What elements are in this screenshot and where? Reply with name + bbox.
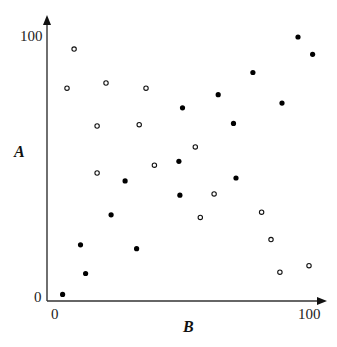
open-circle-point xyxy=(307,264,311,268)
open-circle-point xyxy=(104,81,108,85)
open-circle-point xyxy=(95,124,99,128)
data-points xyxy=(60,34,315,297)
filled-circle-point xyxy=(310,52,315,57)
open-circle-point xyxy=(72,47,76,51)
y-tick-max: 100 xyxy=(20,29,43,44)
plot-area xyxy=(0,0,337,347)
open-circle-point xyxy=(65,86,69,90)
open-circle-point xyxy=(95,171,99,175)
scatter-chart: 100 0 0 100 A B xyxy=(0,0,337,347)
filled-circle-point xyxy=(279,101,284,106)
filled-circle-point xyxy=(123,178,128,183)
filled-circle-point xyxy=(83,271,88,276)
open-circle-point xyxy=(278,270,282,274)
open-circle-point xyxy=(152,163,156,167)
open-circle-point xyxy=(212,192,216,196)
filled-circle-point xyxy=(216,92,221,97)
filled-circle-point xyxy=(60,292,65,297)
y-axis-label: A xyxy=(14,144,25,160)
filled-circle-point xyxy=(176,159,181,164)
filled-circle-point xyxy=(250,70,255,75)
filled-circle-point xyxy=(134,246,139,251)
open-circle-point xyxy=(193,145,197,149)
open-circle-point xyxy=(269,237,273,241)
y-axis-arrow-icon xyxy=(43,15,51,25)
x-tick-min: 0 xyxy=(51,307,59,322)
x-axis-arrow-icon xyxy=(317,297,327,305)
filled-circle-point xyxy=(177,193,182,198)
filled-circle-point xyxy=(109,212,114,217)
open-circle-point xyxy=(137,123,141,127)
x-tick-max: 100 xyxy=(298,307,321,322)
x-axis-label: B xyxy=(183,319,194,335)
open-circle-point xyxy=(259,210,263,214)
filled-circle-point xyxy=(295,34,300,39)
filled-circle-point xyxy=(180,105,185,110)
filled-circle-point xyxy=(78,242,83,247)
filled-circle-point xyxy=(231,121,236,126)
filled-circle-point xyxy=(233,175,238,180)
open-circle-point xyxy=(198,215,202,219)
y-tick-min: 0 xyxy=(34,290,42,305)
open-circle-point xyxy=(144,86,148,90)
